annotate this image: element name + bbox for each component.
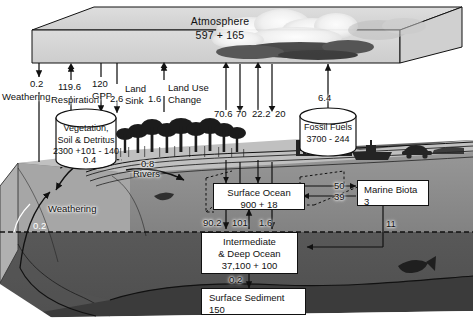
flux-902-value: 90.2	[203, 217, 222, 228]
vegetation-name-line2: Soil & Detritus	[46, 135, 126, 147]
atmosphere-name: Atmosphere	[140, 14, 300, 28]
flux-101-value: 101	[232, 217, 248, 228]
terrain-contours	[18, 168, 146, 318]
page-margin-left	[0, 284, 60, 323]
atmosphere-label-block: Atmosphere 597 + 165	[140, 14, 300, 42]
biota-exchange-arrows	[303, 186, 356, 196]
deep-ocean-name-line1: Intermediate	[206, 236, 293, 248]
flux-deep-16-value: 1.6	[259, 217, 272, 228]
surface-sediment-name: Surface Sediment	[209, 292, 301, 304]
fossil-fuels-name: Fossil Fuels	[292, 122, 364, 134]
arrowheads-up	[68, 62, 262, 69]
flux-rivers-label: Rivers	[133, 168, 160, 180]
surface-ocean-name: Surface Ocean	[218, 187, 300, 199]
flux-biota-to-deep-value: 11	[386, 218, 396, 229]
vegetation-name-line1: Vegetation,	[46, 123, 126, 135]
flux-respiration-value: 119.6	[58, 81, 81, 92]
flux-luc-label1: Land Use	[168, 82, 209, 94]
flux-land-sink-value: 2.6	[110, 93, 123, 104]
surface-sediment-box: Surface Sediment 150	[201, 288, 306, 315]
marine-biota-value: 3	[364, 196, 424, 208]
flux-weathering-atm-value: 0.2	[30, 78, 43, 89]
fossil-fuels-value: 3700 - 244	[292, 134, 364, 146]
atmosphere-value: 597 + 165	[140, 28, 300, 42]
surface-ocean-box: Surface Ocean 900 + 18	[213, 183, 305, 210]
surface-ocean-value: 900 + 18	[218, 199, 300, 211]
deep-ocean-name-line2: & Deep Ocean	[206, 248, 293, 260]
deep-ocean-value: 37,100 + 100	[206, 260, 293, 272]
weathering-curves	[20, 156, 96, 316]
fossil-label-block: Fossil Fuels 3700 - 244	[292, 122, 364, 145]
marine-biota-box: Marine Biota 3	[357, 180, 429, 206]
arrow-biota-to-deep	[307, 202, 383, 247]
vegetation-label-block: Vegetation, Soil & Detritus 2300 +101 - …	[46, 123, 126, 158]
flux-222-value: 22.2	[252, 108, 271, 119]
flux-70-value: 70	[236, 108, 247, 119]
flux-luc-label2: Change	[168, 94, 201, 106]
flux-fossil-emission-value: 6.4	[318, 92, 331, 103]
flux-biota-50-value: 50	[334, 180, 345, 191]
marine-biota-name: Marine Biota	[364, 184, 424, 196]
carbon-cycle-diagram: Atmosphere 597 + 165 Vegetation, Soil & …	[0, 0, 473, 323]
flux-20-value: 20	[275, 108, 286, 119]
ocean-weathering-arrow	[14, 204, 30, 232]
flux-luc-value: 1.6	[148, 93, 161, 104]
flux-veg-weathering-value: 0.4	[83, 154, 96, 165]
flux-weathering-ocean-value: 0.2	[33, 220, 46, 231]
flux-weathering-ocean-label: Weathering	[48, 203, 96, 215]
flux-gpp-value: 120	[92, 78, 108, 89]
flux-land-sink-label2: Sink	[125, 95, 143, 107]
flux-706-value: 70.6	[214, 108, 233, 119]
deep-ocean-box: Intermediate & Deep Ocean 37,100 + 100	[201, 232, 298, 274]
flux-weathering-atm-label: Weathering	[2, 91, 50, 103]
flux-deep-to-sediment-value: 0.2	[229, 274, 242, 285]
flux-land-sink-label1: Land	[125, 83, 146, 95]
surface-sediment-value: 150	[209, 304, 301, 316]
forest	[116, 118, 246, 157]
flux-biota-39-value: 39	[334, 191, 345, 202]
